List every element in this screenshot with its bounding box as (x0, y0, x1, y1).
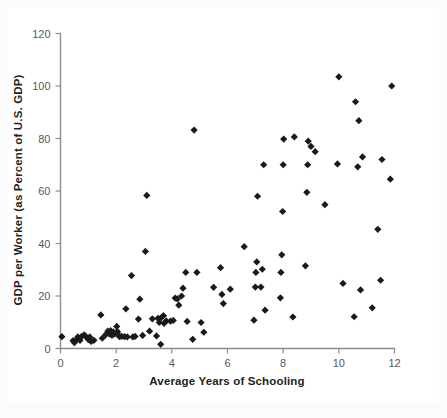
data-point (387, 176, 394, 183)
data-point (241, 243, 248, 250)
y-axis-title: GDP per Worker (as Percent of U.S. GDP) (12, 74, 24, 305)
data-point (227, 286, 234, 293)
x-tick-label: 6 (224, 357, 230, 369)
data-point (359, 153, 366, 160)
data-point (197, 319, 204, 326)
data-point (303, 189, 310, 196)
data-point (369, 304, 376, 311)
data-point (218, 291, 225, 298)
data-point (210, 284, 217, 291)
data-point (354, 163, 361, 170)
data-point (291, 133, 298, 140)
data-point (142, 248, 149, 255)
data-point (321, 201, 328, 208)
y-tick-label: 20 (38, 290, 50, 302)
data-point (252, 269, 259, 276)
y-tick-label: 40 (38, 238, 50, 250)
figure-page: 024681012 020406080100120 Average Years … (0, 0, 447, 418)
x-tick-label: 0 (57, 357, 63, 369)
data-point (179, 285, 186, 292)
x-tick-label: 12 (388, 357, 400, 369)
axes-group (61, 34, 395, 349)
y-tick-label: 120 (32, 28, 50, 40)
data-point (339, 280, 346, 287)
data-point (184, 318, 191, 325)
data-point (278, 251, 285, 258)
axis-lines (61, 34, 395, 349)
data-point (189, 336, 196, 343)
data-point (135, 316, 142, 323)
data-point (175, 302, 182, 309)
data-point (261, 307, 268, 314)
data-point (355, 117, 362, 124)
y-tick-group: 020406080100120 (32, 28, 60, 355)
scatter-chart: 024681012 020406080100120 Average Years … (0, 0, 447, 418)
data-point (217, 264, 224, 271)
y-tick-label: 0 (44, 343, 50, 355)
data-point (277, 269, 284, 276)
data-point (277, 294, 284, 301)
data-point (193, 269, 200, 276)
data-point (153, 332, 160, 339)
data-point (97, 311, 104, 318)
data-point (351, 313, 358, 320)
data-point (191, 127, 198, 134)
data-point (335, 73, 342, 80)
data-point (304, 161, 311, 168)
data-point (136, 296, 143, 303)
data-point (254, 193, 261, 200)
data-point (388, 82, 395, 89)
x-tick-label: 4 (169, 357, 175, 369)
data-point (352, 98, 359, 105)
data-point (289, 313, 296, 320)
data-point (334, 160, 341, 167)
data-point (257, 283, 264, 290)
data-point (182, 269, 189, 276)
x-tick-label: 2 (113, 357, 119, 369)
y-tick-label: 100 (32, 80, 50, 92)
data-point (200, 329, 207, 336)
x-axis-title: Average Years of Schooling (149, 375, 304, 387)
data-point (250, 317, 257, 324)
data-point (280, 161, 287, 168)
x-tick-label: 8 (280, 357, 286, 369)
y-tick-label: 80 (38, 133, 50, 145)
y-tick-label: 60 (38, 185, 50, 197)
data-point (374, 226, 381, 233)
data-point (302, 262, 309, 269)
data-point (280, 135, 287, 142)
x-tick-label: 10 (333, 357, 345, 369)
chart-svg: 024681012 020406080100120 Average Years … (0, 0, 447, 418)
data-point (253, 258, 260, 265)
data-point (58, 333, 65, 340)
data-point (157, 341, 164, 348)
data-point (312, 148, 319, 155)
data-point (220, 300, 227, 307)
x-tick-group: 024681012 (57, 349, 400, 369)
data-point (146, 328, 153, 335)
data-point (377, 277, 384, 284)
data-point-group (58, 73, 395, 348)
data-point (378, 156, 385, 163)
data-point (279, 208, 286, 215)
data-point (122, 305, 129, 312)
data-point (259, 266, 266, 273)
data-point (139, 332, 146, 339)
data-point (128, 272, 135, 279)
data-point (143, 192, 150, 199)
data-point (260, 161, 267, 168)
data-point (357, 286, 364, 293)
